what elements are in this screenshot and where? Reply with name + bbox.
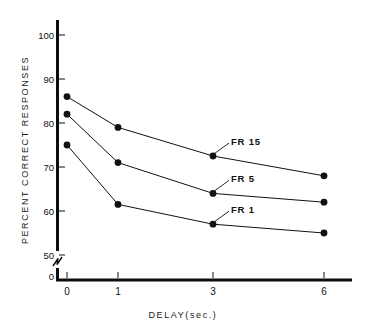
data-point bbox=[321, 230, 328, 237]
data-point bbox=[210, 221, 217, 228]
data-point bbox=[321, 199, 328, 206]
data-point bbox=[115, 201, 122, 208]
data-point bbox=[115, 124, 122, 131]
y-tick-label-0: 0 bbox=[49, 271, 54, 282]
x-axis-title: DELAY(sec.) bbox=[149, 310, 218, 320]
annotation-leaders bbox=[215, 143, 230, 222]
x-tick-label-0: 0 bbox=[64, 286, 70, 297]
line-chart: 100 90 80 70 60 50 0 0 1 3 6 DELAY(sec.)… bbox=[0, 0, 366, 327]
y-axis-title: PERCENT CORRECT RESPONSES bbox=[20, 56, 30, 244]
series-fr-5 bbox=[64, 111, 328, 206]
series-fr-1 bbox=[64, 142, 328, 237]
data-point bbox=[321, 172, 328, 179]
x-tick-marks bbox=[67, 272, 324, 278]
x-tick-label-6: 6 bbox=[321, 286, 327, 297]
x-tick-label-1: 1 bbox=[115, 286, 121, 297]
data-point bbox=[64, 142, 71, 149]
series-markers-fr-1 bbox=[64, 142, 328, 237]
y-tick-label-60: 60 bbox=[43, 206, 54, 217]
data-point bbox=[64, 93, 71, 100]
series-markers-fr-15 bbox=[64, 93, 328, 179]
series-label-fr-1: FR 1 bbox=[231, 204, 255, 215]
data-point bbox=[210, 153, 217, 160]
y-tick-label-90: 90 bbox=[43, 74, 54, 85]
series-line-fr-5 bbox=[67, 114, 324, 202]
x-tick-label-3: 3 bbox=[210, 286, 216, 297]
data-point bbox=[64, 111, 71, 118]
chart-figure: 100 90 80 70 60 50 0 0 1 3 6 DELAY(sec.)… bbox=[0, 0, 366, 327]
series-markers-fr-5 bbox=[64, 111, 328, 206]
series-label-fr-5: FR 5 bbox=[231, 173, 255, 184]
series-label-fr-15: FR 15 bbox=[231, 136, 261, 147]
y-tick-label-80: 80 bbox=[43, 118, 54, 129]
y-tick-label-70: 70 bbox=[43, 162, 54, 173]
series-line-fr-1 bbox=[67, 145, 324, 233]
axis-break-icon bbox=[53, 257, 62, 266]
series-line-fr-15 bbox=[67, 97, 324, 176]
series-fr-15 bbox=[64, 93, 328, 179]
y-tick-label-50: 50 bbox=[43, 250, 54, 261]
data-point bbox=[210, 190, 217, 197]
y-tick-label-100: 100 bbox=[38, 30, 54, 41]
data-point bbox=[115, 159, 122, 166]
